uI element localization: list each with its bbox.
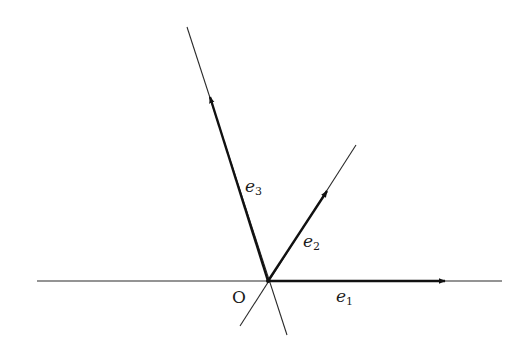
e1-label: e1 [336, 288, 353, 307]
origin-point [266, 279, 270, 283]
origin-label: O [232, 289, 246, 306]
diagram-svg [0, 0, 527, 351]
e2-label: e2 [303, 233, 320, 252]
e3-label: e3 [245, 178, 262, 197]
vector-diagram: O e1 e2 e3 [0, 0, 527, 351]
axis-lines [37, 27, 502, 335]
